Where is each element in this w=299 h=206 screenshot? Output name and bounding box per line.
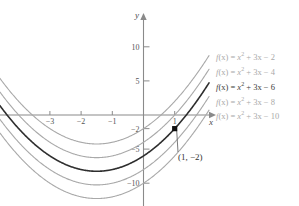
x-axis-label: x: [209, 117, 213, 127]
legend-arg-0: (x): [218, 52, 228, 62]
y-tick-label: 10: [132, 43, 140, 52]
annotation-group: [172, 126, 178, 152]
x-tick-label: 1: [173, 117, 177, 126]
legend-arg-4: (x): [218, 111, 228, 121]
legend-eq-3: =: [228, 97, 237, 107]
annotation-point-marker: [172, 126, 177, 131]
legend-arg-1: (x): [218, 67, 228, 77]
y-axis-arrowhead: [140, 13, 146, 20]
legend-eq-0: =: [228, 52, 237, 62]
point-annotation-label: (1, −2): [178, 152, 203, 162]
y-axis-label: y: [135, 10, 139, 20]
quadratic-family-chart: −3−2−11105−2−5−10 y x (1, −2) f(x) = x2 …: [0, 0, 299, 206]
legend-rest-3: + 3x − 8: [244, 97, 275, 107]
legend-eq-4: =: [228, 111, 237, 121]
legend-item-2: f(x) = x2 + 3x − 6: [216, 83, 275, 92]
legend-rest-1: + 3x − 4: [244, 67, 275, 77]
x-tick-label: −3: [46, 117, 55, 126]
legend-eq-1: =: [228, 67, 237, 77]
x-tick-label: −1: [108, 117, 117, 126]
legend-item-0: f(x) = x2 + 3x − 2: [216, 53, 275, 62]
legend-rest-2: + 3x − 6: [244, 82, 275, 92]
legend-item-3: f(x) = x2 + 3x − 8: [216, 98, 275, 107]
curve-series-0: [0, 56, 209, 144]
y-tick-label: 5: [136, 77, 140, 86]
legend-rest-0: + 3x − 2: [244, 52, 275, 62]
curves-group: [0, 56, 209, 199]
legend-item-1: f(x) = x2 + 3x − 4: [216, 68, 275, 77]
x-tick-label: −2: [77, 117, 86, 126]
axes-group: [0, 13, 216, 206]
legend-arg-2: (x): [218, 82, 228, 92]
legend-rest-4: + 3x − 10: [244, 111, 279, 121]
legend-eq-2: =: [228, 82, 237, 92]
y-tick-label: −5: [131, 145, 140, 154]
legend-item-4: f(x) = x2 + 3x − 10: [216, 112, 279, 121]
annotation-leader-line: [177, 131, 178, 152]
legend-arg-3: (x): [218, 97, 228, 107]
